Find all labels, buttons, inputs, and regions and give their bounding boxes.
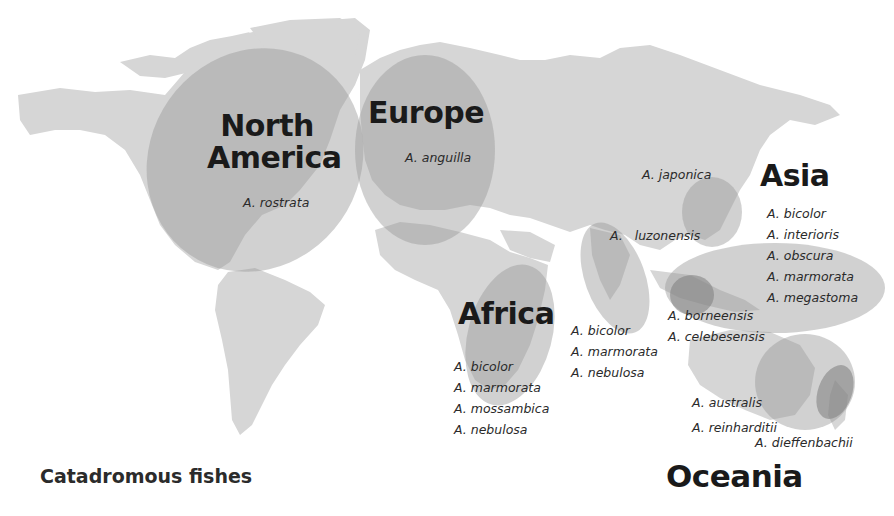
species-item: A. marmorata — [571, 341, 658, 362]
species-item: A. bicolor — [454, 356, 549, 377]
region-label-africa: Africa — [458, 298, 554, 330]
species-item: A. interioris — [767, 224, 858, 245]
species-item: A. marmorata — [454, 377, 549, 398]
species-a-rostrata: A. rostrata — [243, 192, 309, 213]
species-list-indonesia: A. borneensis A. celebesensis — [668, 305, 765, 347]
species-item: A. mossambica — [454, 398, 549, 419]
species-item: A. nebulosa — [454, 419, 549, 440]
region-label-oceania: Oceania — [666, 460, 803, 492]
figure-caption: Catadromous fishes — [40, 465, 252, 487]
species-a-luzonensis: A. luzonensis — [610, 225, 700, 246]
species-item: A. obscura — [767, 245, 858, 266]
north-america-line1: North — [207, 110, 327, 142]
species-list-asia: A. bicolor A. interioris A. obscura A. m… — [767, 203, 858, 308]
region-label-asia: Asia — [760, 160, 830, 192]
region-label-north-america: North America — [207, 110, 327, 174]
species-a-japonica: A. japonica — [642, 164, 711, 185]
north-america-line2: America — [207, 142, 327, 174]
species-item: A. celebesensis — [668, 326, 765, 347]
species-a-anguilla: A. anguilla — [405, 147, 471, 168]
region-label-europe: Europe — [368, 97, 484, 129]
species-a-dieffenbachii: A. dieffenbachii — [755, 432, 853, 453]
species-item: A. marmorata — [767, 266, 858, 287]
species-item: A. megastoma — [767, 287, 858, 308]
species-item: A. bicolor — [571, 320, 658, 341]
species-item: A. nebulosa — [571, 362, 658, 383]
species-item: A. australis — [692, 390, 777, 415]
species-list-indian-ocean: A. bicolor A. marmorata A. nebulosa — [571, 320, 658, 383]
landmass-south-america — [215, 268, 325, 435]
species-item: A. bicolor — [767, 203, 858, 224]
species-list-africa: A. bicolor A. marmorata A. mossambica A.… — [454, 356, 549, 440]
species-item: A. borneensis — [668, 305, 765, 326]
